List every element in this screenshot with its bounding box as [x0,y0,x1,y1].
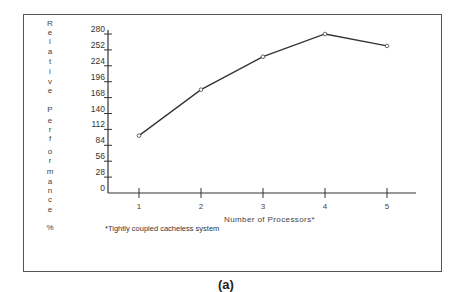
x-tick-label: 5 [385,202,390,211]
x-axis-label: Number of Processors* [224,215,315,224]
y-tick-label: 0 [100,183,105,193]
y-tick-label: 84 [96,135,106,145]
y-tick-label: 168 [91,88,105,98]
data-line [139,34,387,136]
y-tick-label: 56 [96,151,106,161]
y-tick-label: 280 [91,24,105,34]
x-tick-label: 4 [323,202,328,211]
x-tick-label: 3 [261,202,266,211]
data-point [261,55,265,59]
line-chart: 028568411214016819622425228012345Number … [0,0,461,292]
y-tick-label: 140 [91,104,105,114]
footnote: *Tightly coupled cacheless system [105,224,219,233]
data-point [199,88,203,92]
data-point [137,134,141,138]
y-tick-label: 252 [91,40,105,50]
y-tick-label: 224 [91,56,105,66]
data-point [385,44,389,48]
y-tick-label: 112 [91,119,105,129]
data-point [323,32,327,36]
x-tick-label: 2 [199,202,204,211]
y-tick-label: 28 [96,167,106,177]
figure-caption: (a) [218,277,234,292]
y-tick-label: 196 [91,72,105,82]
x-tick-label: 1 [137,202,142,211]
